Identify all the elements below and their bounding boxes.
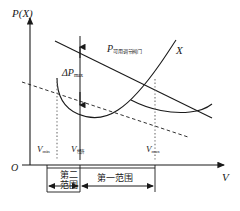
delta-p-max-label: ΔPmax (62, 68, 83, 79)
second-range-line1: 第二 (56, 170, 82, 180)
dashed-asymptote-line (22, 82, 188, 137)
first-range-label: 第一范围 (97, 174, 133, 183)
x-curve-label: X (176, 45, 183, 56)
x-right-tail (131, 100, 212, 113)
delta-p-symbol: ΔP (62, 67, 74, 78)
delta-p-subscript: max (74, 72, 83, 78)
tick-label-v-max: Vmax (146, 145, 159, 155)
x-axis-label: V (222, 172, 229, 183)
second-range-line2: 范围 (56, 180, 82, 190)
tick-label-v-economic: V经济 (71, 145, 84, 155)
cost-pressure-diagram: P(X) V O P可用调节阀门 X ΔPmax Vmin V经济 Vmax 第… (0, 0, 240, 211)
p-available-line-label: P可用调节阀门 (107, 44, 142, 54)
origin-label: O (11, 163, 18, 173)
v-min-subscript: min (43, 149, 50, 154)
y-axis-label: P(X) (12, 8, 33, 19)
p-subscript: 可用调节阀门 (113, 48, 142, 54)
tick-label-v-min: Vmin (37, 145, 50, 155)
second-range-label: 第二 范围 (56, 170, 82, 191)
v-max-subscript: max (152, 149, 160, 154)
v-econ-subscript: 经济 (77, 149, 85, 154)
